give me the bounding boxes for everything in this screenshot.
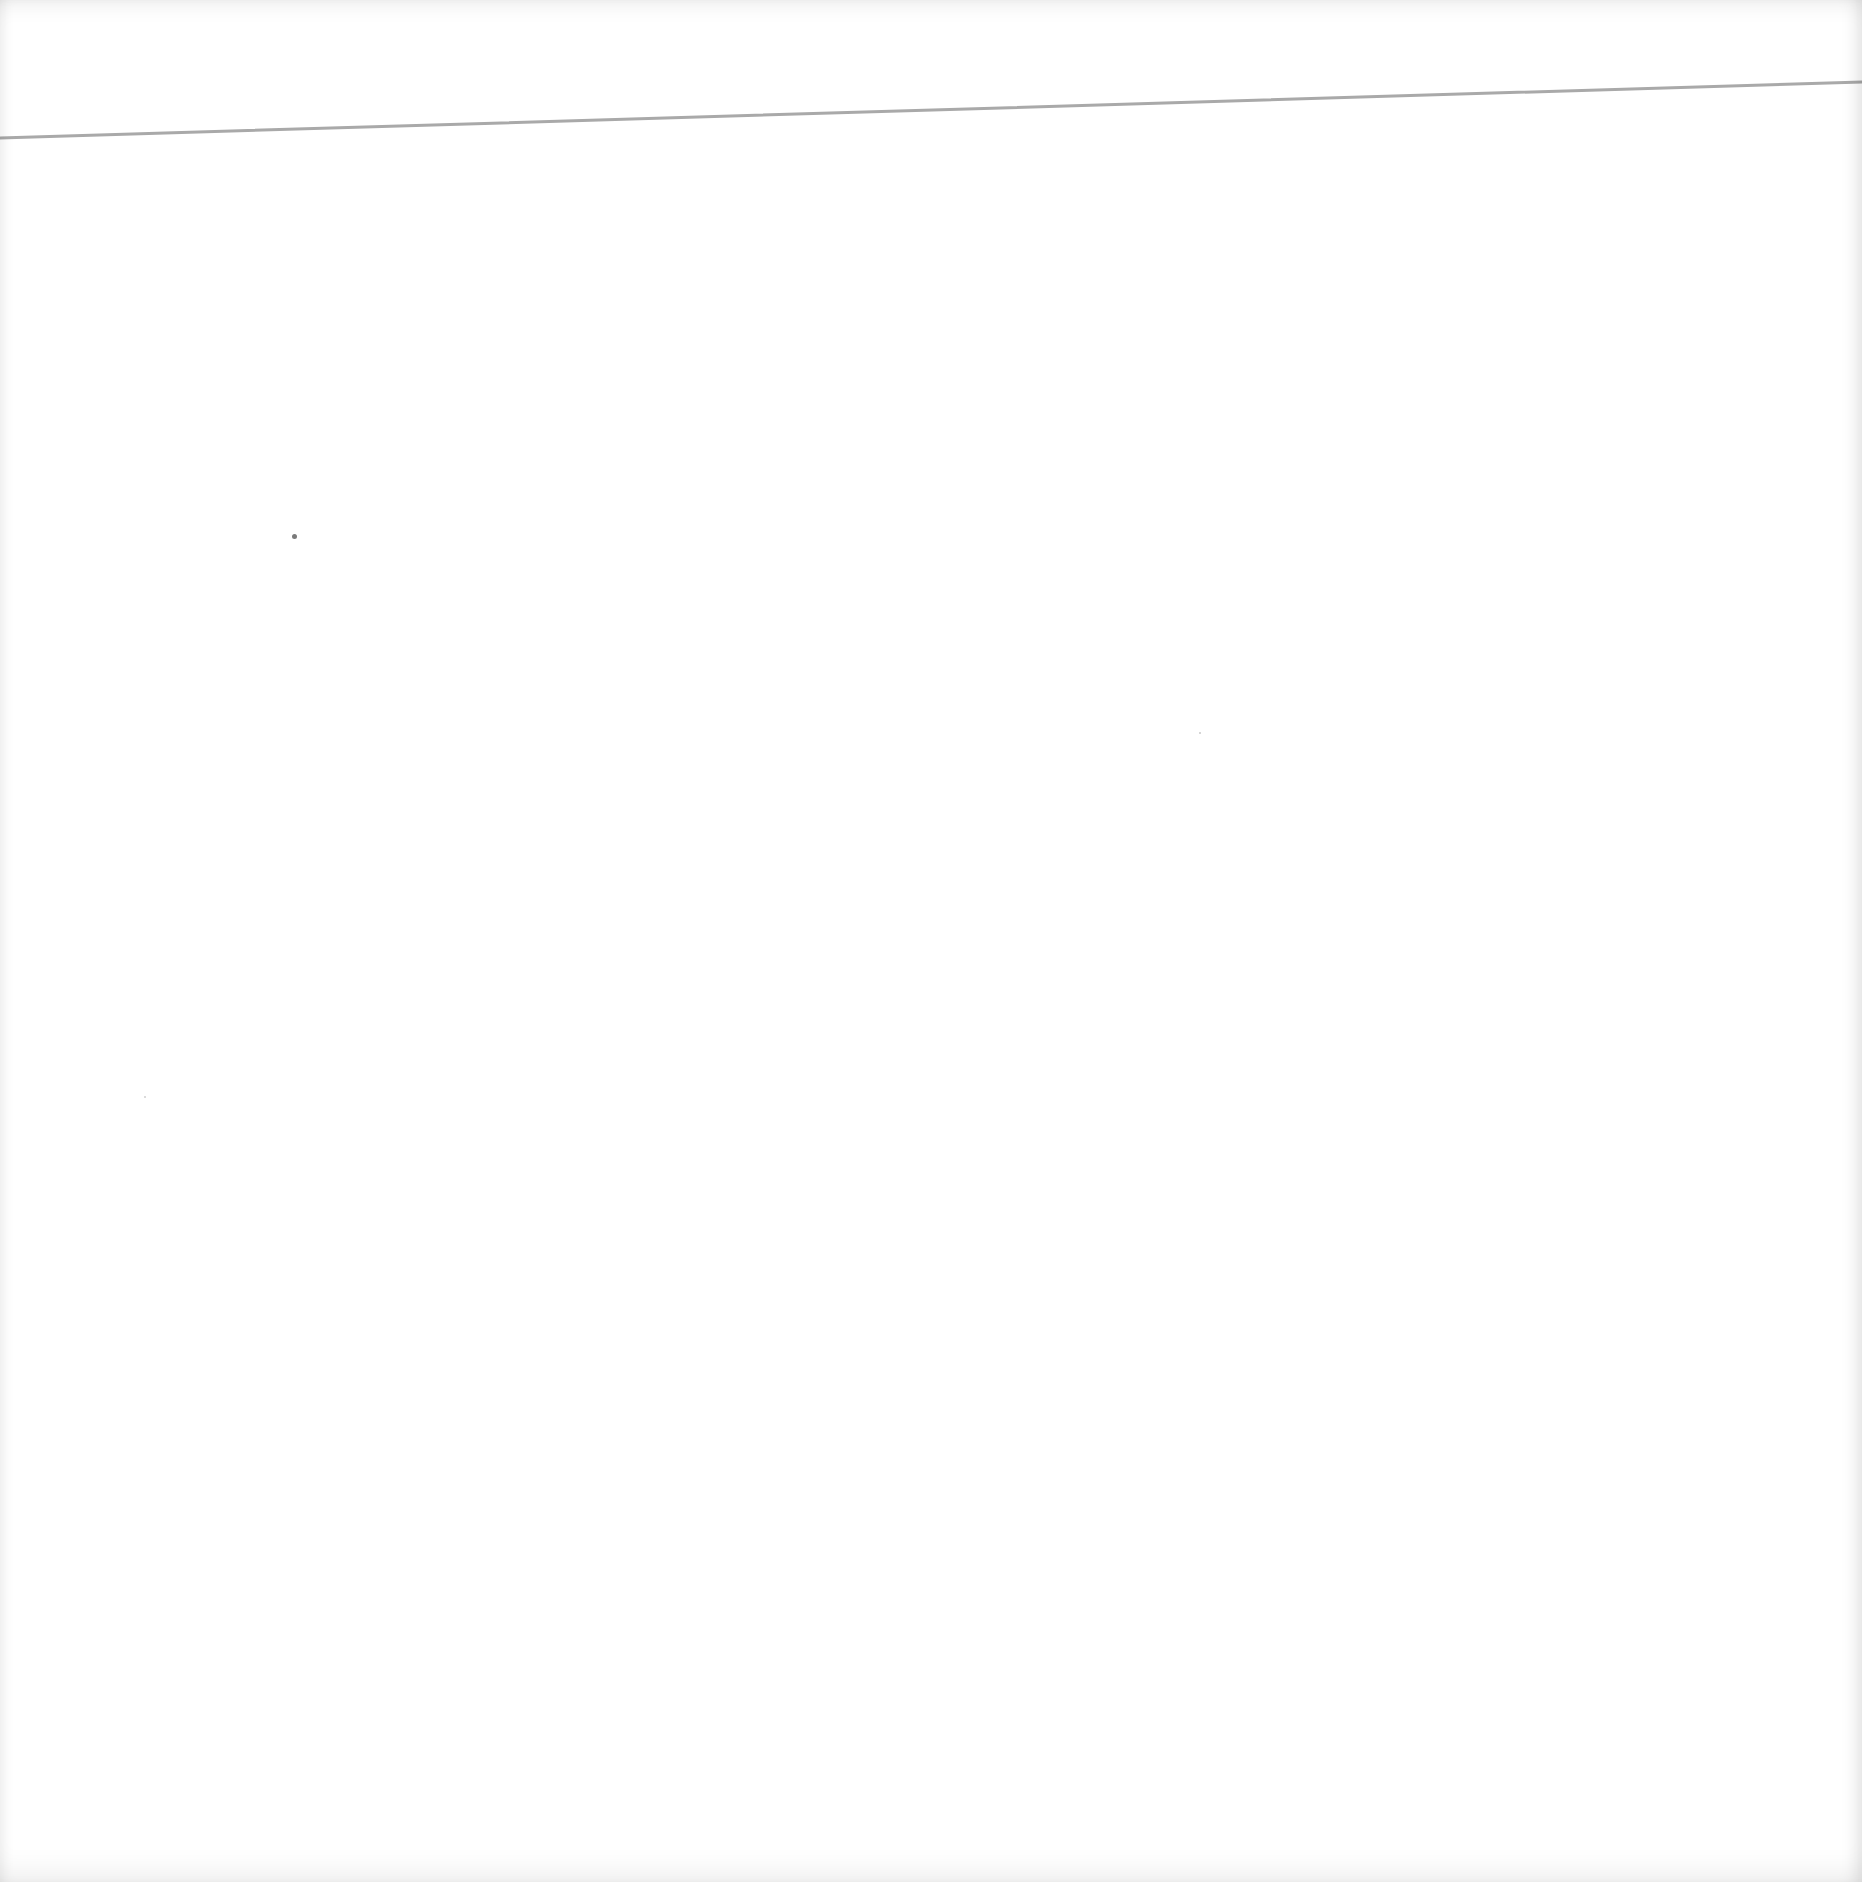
dust-speck [144,1096,146,1098]
dust-speck [1199,732,1201,734]
dust-speck [292,534,297,539]
scan-edge-shading [0,0,1862,1882]
scanned-page [0,0,1862,1882]
horizontal-rule [0,0,1862,160]
